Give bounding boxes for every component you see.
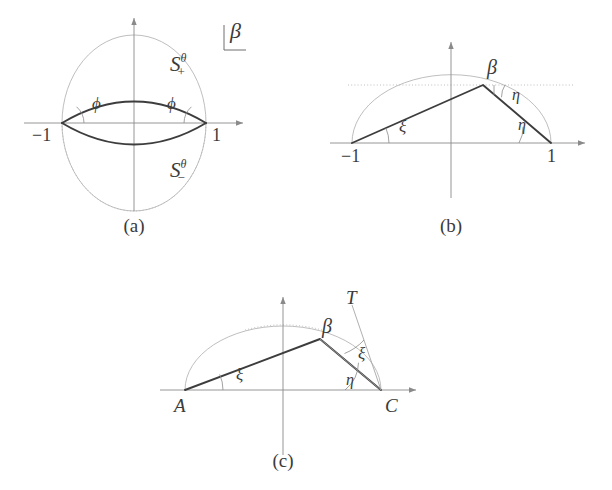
panel-c-label-c: C <box>385 396 398 415</box>
panel-c-label-eta: η <box>346 372 354 388</box>
panel-a-s-minus-sub: − <box>177 170 184 185</box>
panel-a-label-beta: β <box>230 20 241 42</box>
panel-a-label-s-minus: Sθ− <box>170 158 194 183</box>
panel-b-polyline <box>352 85 551 143</box>
panel-a-label-s-plus: Sθ+ <box>170 52 194 77</box>
panel-a-caption: (a) <box>99 215 169 237</box>
panel-b-y-axis-arrowhead <box>448 42 453 49</box>
panel-c-label-xi-tangent: ξ <box>358 345 365 362</box>
panel-b-label-beta: β <box>487 57 497 77</box>
panel-a-label-minus-one: −1 <box>32 126 51 144</box>
figure-vector-layer <box>0 0 612 490</box>
panel-a-group <box>24 18 246 211</box>
panel-b-x-axis-arrowhead <box>578 140 585 145</box>
panel-c-x-axis-arrowhead <box>409 387 416 392</box>
panel-b-label-xi: ξ <box>399 118 406 135</box>
panel-b-group <box>330 42 585 198</box>
panel-a-s-minus-sup: θ <box>181 157 187 171</box>
panel-c-group <box>160 297 416 455</box>
panel-c-label-t: T <box>346 288 357 307</box>
panel-c-label-xi-left: ξ <box>236 366 243 383</box>
panel-b-label-minus-one: −1 <box>341 147 360 165</box>
panel-c-label-beta: β <box>322 316 332 336</box>
panel-b-label-one: 1 <box>547 147 556 165</box>
panel-a-x-axis-arrowhead <box>236 120 243 125</box>
panel-a-y-axis-arrowhead <box>131 18 136 25</box>
figure-root: −1 1 ϕ ϕ Sθ+ Sθ− β (a) −1 1 β ξ η η (b) … <box>0 0 612 490</box>
panel-a-label-phi-right: ϕ <box>167 95 176 112</box>
panel-c-caption: (c) <box>248 450 318 472</box>
panel-b-angle-arc-xi <box>386 128 389 143</box>
panel-a-label-one: 1 <box>212 126 221 144</box>
panel-a-s-plus-sup: θ <box>181 51 187 65</box>
panel-a-s-plus-sub: + <box>177 64 184 79</box>
panel-b-angle-arc-eta-apex <box>501 85 505 97</box>
panel-b-label-eta-apex: η <box>512 87 520 103</box>
panel-c-y-axis-arrowhead <box>280 297 285 304</box>
panel-a-label-phi-left: ϕ <box>92 95 101 112</box>
panel-b-caption: (b) <box>416 215 486 237</box>
panel-c-label-a: A <box>174 396 186 415</box>
panel-b-label-eta-right: η <box>518 117 526 133</box>
